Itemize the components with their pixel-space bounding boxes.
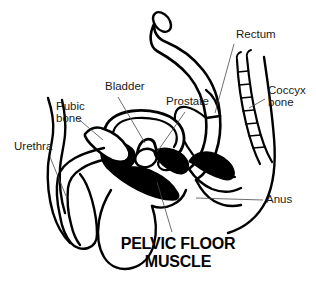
- label-prostate: Prostate: [166, 95, 209, 107]
- label-anus: Anus: [266, 193, 292, 205]
- title-line-1: PELVIC FLOOR: [121, 235, 236, 252]
- label-pubic-bone-line2: bone: [56, 112, 82, 124]
- title-line-2: MUSCLE: [145, 253, 212, 270]
- pelvic-anatomy-diagram: Rectum Coccyx bone Bladder Prostate Pubi…: [0, 0, 316, 291]
- label-urethra: Urethra: [14, 140, 53, 152]
- label-coccyx-line1: Coccyx: [268, 84, 306, 96]
- label-rectum: Rectum: [236, 28, 276, 40]
- label-bladder: Bladder: [105, 80, 145, 92]
- label-pubic-bone-line1: Pubic: [56, 100, 85, 112]
- label-coccyx-line2: bone: [268, 96, 294, 108]
- diagram-page: Rectum Coccyx bone Bladder Prostate Pubi…: [0, 0, 316, 291]
